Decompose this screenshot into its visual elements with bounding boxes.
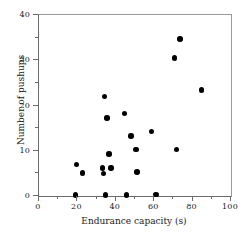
data-point [100, 165, 105, 170]
x-tick-label: 80 [186, 202, 197, 211]
data-point [177, 36, 182, 41]
x-tick-label: 100 [222, 202, 238, 211]
x-axis-title: Endurance capacity (s) [38, 216, 230, 226]
y-tick-label: 0 [25, 191, 30, 200]
data-point [149, 129, 154, 134]
x-tick-major [115, 196, 116, 201]
x-tick-major [76, 196, 77, 201]
y-tick-major [33, 150, 38, 151]
y-tick-minor [35, 127, 38, 128]
y-tick-major [33, 195, 38, 196]
y-tick-minor [35, 37, 38, 38]
x-tick-major [153, 196, 154, 201]
y-axis-title: Number of pushups [16, 35, 26, 165]
y-tick-label: 40 [19, 10, 30, 19]
scatter-plot-figure: 020406080100 010203040 Endurance capacit… [0, 0, 248, 236]
data-point [122, 111, 127, 116]
x-tick-minor [211, 196, 212, 199]
x-tick-label: 20 [71, 202, 82, 211]
data-point [74, 162, 79, 167]
x-tick-label: 0 [35, 202, 40, 211]
data-point [199, 87, 204, 92]
data-point [133, 147, 138, 152]
data-point [134, 169, 139, 174]
x-tick-minor [57, 196, 58, 199]
x-tick-major [192, 196, 193, 201]
x-tick-major [38, 196, 39, 201]
x-tick-minor [96, 196, 97, 199]
data-point [174, 147, 179, 152]
data-point [172, 55, 177, 60]
y-tick-minor [35, 172, 38, 173]
x-tick-label: 40 [110, 202, 121, 211]
y-tick-major [33, 14, 38, 15]
x-axis-ticks: 020406080100 [38, 196, 231, 202]
plot-area [38, 14, 232, 197]
data-point [108, 165, 113, 170]
y-tick-major [33, 59, 38, 60]
data-point [128, 133, 133, 138]
data-point [106, 151, 111, 156]
x-tick-minor [134, 196, 135, 199]
y-tick-minor [35, 82, 38, 83]
data-point [101, 171, 106, 176]
y-axis-ticks: 010203040 [32, 14, 38, 196]
x-tick-major [230, 196, 231, 201]
data-point [102, 94, 107, 99]
x-tick-label: 60 [148, 202, 159, 211]
x-tick-minor [172, 196, 173, 199]
y-tick-major [33, 105, 38, 106]
data-point [104, 115, 109, 120]
data-point [80, 170, 85, 175]
data-points-layer [39, 15, 231, 196]
